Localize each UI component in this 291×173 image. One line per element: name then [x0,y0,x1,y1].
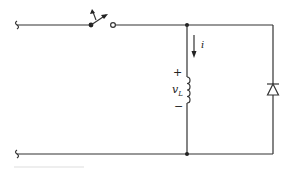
minus-label: − [174,101,183,112]
junction-bottom-icon [185,152,189,156]
current-label: i [201,40,204,50]
voltage-label: vL [172,84,183,98]
current-arrow-icon [192,51,197,58]
plus-label: + [173,67,182,78]
voltage-subscript: L [178,90,183,98]
switch-action-arrow-icon [90,9,95,14]
switch-contact-icon [111,23,116,28]
circuit-diagram [0,0,291,173]
faint-caption [14,166,84,168]
diode-triangle-icon [268,84,279,95]
inductor-coil-icon [187,77,190,103]
